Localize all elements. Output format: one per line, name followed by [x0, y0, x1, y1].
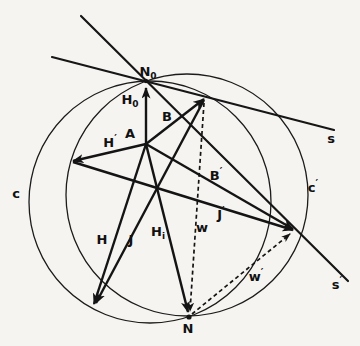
label-b-prime: B′ — [210, 166, 223, 183]
diagram-svg: N0H0ABH′B′J′ww′HJHiNcc′ss′ — [0, 0, 360, 346]
label-j-prime: J′ — [216, 205, 225, 222]
label-w-prime: w′ — [249, 267, 264, 284]
labels-group: N0H0ABH′B′J′ww′HJHiNcc′ss′ — [12, 64, 342, 336]
figure-stage: N0H0ABH′B′J′ww′HJHiNcc′ss′ — [0, 0, 360, 346]
label-h0: H0 — [121, 92, 138, 109]
vector-w-prime — [192, 234, 290, 314]
label-c: c — [12, 186, 20, 201]
label-s-prime: s′ — [332, 275, 343, 292]
vector-b — [146, 99, 204, 144]
vector-j — [96, 100, 204, 303]
point-a — [144, 142, 147, 145]
vector-j-prime — [73, 162, 293, 230]
label-h: H — [97, 232, 108, 247]
label-n: N — [183, 321, 194, 336]
label-a: A — [125, 126, 135, 141]
label-s: s — [327, 131, 335, 146]
vector-w — [190, 103, 204, 311]
label-j: J — [128, 232, 134, 247]
label-w: w — [196, 220, 208, 235]
label-c-prime: c′ — [308, 178, 319, 195]
point-n — [186, 314, 191, 319]
line-s-prime — [81, 16, 348, 281]
label-n0: N0 — [139, 64, 156, 81]
label-h-prime: H′ — [103, 133, 117, 150]
point-n0 — [144, 79, 148, 83]
label-b: B — [162, 109, 172, 124]
label-h-i: Hi — [151, 224, 165, 241]
